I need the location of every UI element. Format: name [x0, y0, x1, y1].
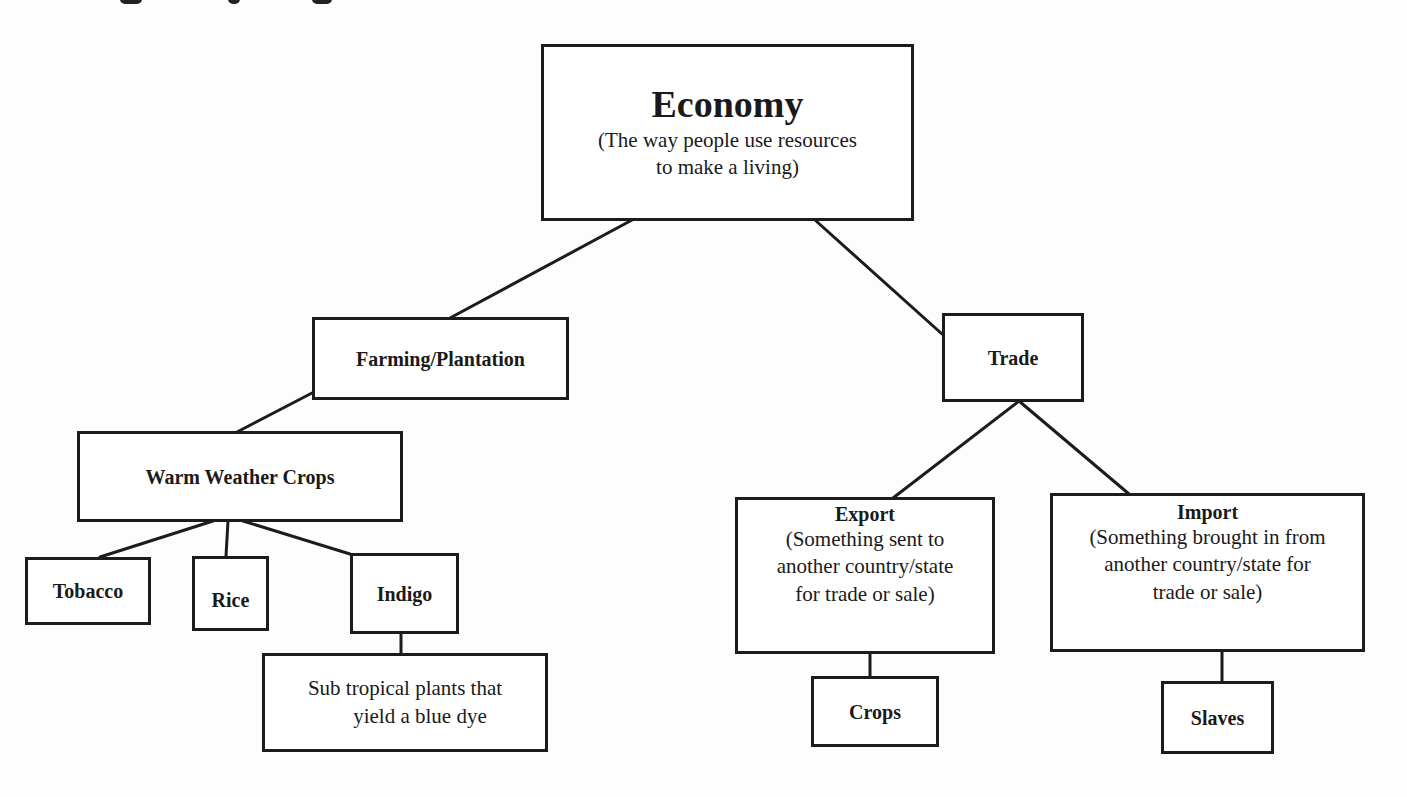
- import-line1: (Something brought in from: [1089, 524, 1325, 551]
- node-indigo-description: Sub tropical plants that yield a blue dy…: [262, 653, 548, 752]
- export-line3: for trade or sale): [795, 581, 934, 608]
- rice-label: Rice: [212, 587, 250, 613]
- concept-map-canvas: Economy (The way people use resources to…: [0, 0, 1407, 797]
- connector-warmcrops-tobacco: [100, 521, 213, 557]
- import-title: Import: [1177, 500, 1238, 524]
- economy-subtitle-line1: (The way people use resources: [598, 127, 857, 154]
- slaves-label: Slaves: [1191, 705, 1244, 731]
- trade-label: Trade: [988, 345, 1039, 371]
- node-trade: Trade: [942, 313, 1084, 402]
- export-line1: (Something sent to: [786, 526, 945, 553]
- node-export: Export (Something sent to another countr…: [735, 497, 995, 654]
- connector-economy-farming: [450, 220, 632, 318]
- node-import: Import (Something brought in from anothe…: [1050, 493, 1365, 652]
- node-slaves: Slaves: [1161, 681, 1274, 754]
- import-line2: another country/state for: [1104, 551, 1310, 578]
- node-tobacco: Tobacco: [25, 557, 151, 625]
- export-title: Export: [835, 502, 895, 526]
- connector-warmcrops-indigo: [243, 521, 350, 554]
- connector-farming-warmcrops: [237, 393, 312, 432]
- warm-crops-label: Warm Weather Crops: [146, 464, 335, 490]
- connector-trade-import: [1019, 401, 1129, 494]
- connector-economy-trade: [815, 220, 942, 334]
- economy-title: Economy: [652, 83, 804, 127]
- crops-label: Crops: [849, 699, 901, 725]
- tobacco-label: Tobacco: [53, 578, 123, 604]
- economy-subtitle-line2: to make a living): [656, 154, 799, 181]
- indigo-note-line2: yield a blue dye: [323, 703, 487, 730]
- connector-trade-export: [893, 401, 1019, 498]
- farming-label: Farming/Plantation: [356, 346, 525, 372]
- node-economy: Economy (The way people use resources to…: [541, 44, 914, 221]
- indigo-label: Indigo: [377, 581, 433, 607]
- node-indigo: Indigo: [350, 553, 459, 634]
- node-warm-weather-crops: Warm Weather Crops: [77, 431, 403, 522]
- node-rice: Rice: [192, 556, 269, 631]
- connector-warmcrops-rice: [226, 521, 228, 556]
- node-farming-plantation: Farming/Plantation: [312, 317, 569, 400]
- import-line3: trade or sale): [1153, 579, 1263, 606]
- indigo-note-line1: Sub tropical plants that: [308, 675, 502, 702]
- node-crops: Crops: [811, 676, 939, 747]
- export-line2: another country/state: [777, 553, 954, 580]
